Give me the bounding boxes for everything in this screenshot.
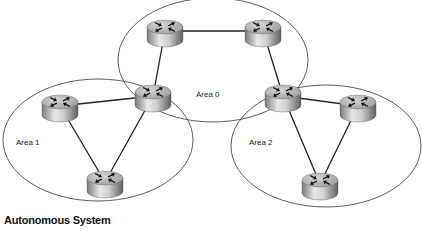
area0-label: Area 0 xyxy=(196,90,220,99)
autonomous-system-caption: Autonomous System xyxy=(4,214,111,226)
area1-label: Area 1 xyxy=(16,138,40,147)
router-icon xyxy=(135,85,171,112)
router-icon xyxy=(245,20,281,47)
router-icon xyxy=(147,20,183,47)
router-icon xyxy=(340,95,376,122)
area2-label: Area 2 xyxy=(249,138,273,147)
router-icon xyxy=(87,171,123,198)
links-layer xyxy=(60,31,358,184)
ospf-network-diagram: Area 0Area 1Area 2 xyxy=(0,0,422,231)
router-icon xyxy=(42,95,78,122)
router-icon xyxy=(265,85,301,112)
router-icon xyxy=(302,173,338,200)
